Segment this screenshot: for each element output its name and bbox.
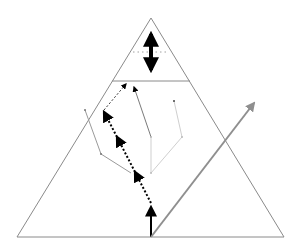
branch-left xyxy=(85,110,131,173)
branch-nodes xyxy=(84,100,183,174)
branch-light-right xyxy=(151,101,182,173)
dotted-path-seg4 xyxy=(104,84,126,110)
gray-arrow xyxy=(151,103,254,237)
pyramid-diagram xyxy=(0,0,301,250)
dotted-path-seg2 xyxy=(117,137,135,172)
dotted-path-seg1 xyxy=(135,172,151,203)
branch-center-upper xyxy=(134,87,151,137)
dotted-path-seg3 xyxy=(104,112,117,137)
